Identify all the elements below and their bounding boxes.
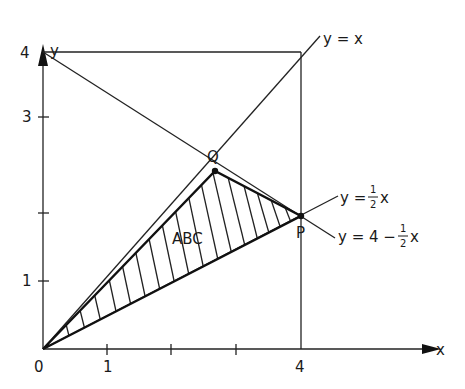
- point-q-label: Q: [207, 148, 219, 166]
- svg-text:1: 1: [370, 184, 376, 195]
- y-tick-label-3: 3: [22, 108, 32, 126]
- origin-label: 0: [34, 358, 44, 376]
- x-tick-label-1: 1: [103, 358, 113, 376]
- point-q: [212, 168, 218, 174]
- svg-text:1: 1: [400, 223, 406, 234]
- label-y-equals-4-minus-half-x: y = 4 − 1 2 x: [338, 223, 419, 249]
- line-y-equals-x: [43, 36, 320, 349]
- svg-text:2: 2: [370, 199, 376, 210]
- svg-text:y = 4 −: y = 4 −: [338, 228, 396, 246]
- y-tick-label-4: 4: [20, 44, 30, 62]
- point-p-label: P: [296, 224, 305, 242]
- x-axis-label: x: [436, 341, 445, 359]
- region-label: ABC: [172, 230, 203, 248]
- svg-text:2: 2: [400, 238, 406, 249]
- label-y-equals-half-x: y = 1 2 x: [340, 184, 389, 210]
- label-y-equals-x: y = x: [323, 30, 363, 48]
- svg-text:y =: y =: [340, 189, 366, 207]
- y-axis: [38, 44, 48, 349]
- svg-text:x: x: [410, 228, 419, 246]
- y-tick-label-1: 1: [22, 272, 32, 290]
- y-axis-label: y: [50, 42, 59, 60]
- hatch-pattern: [60, 160, 303, 360]
- x-tick-label-4: 4: [295, 358, 305, 376]
- point-p: [298, 213, 304, 219]
- svg-text:x: x: [380, 189, 389, 207]
- diagram-canvas: y x 0 1 4 1 3 4 Q P ABC y = x y = 1 2 x …: [0, 0, 465, 389]
- x-axis: [43, 344, 441, 354]
- triangle-abc: [43, 171, 301, 349]
